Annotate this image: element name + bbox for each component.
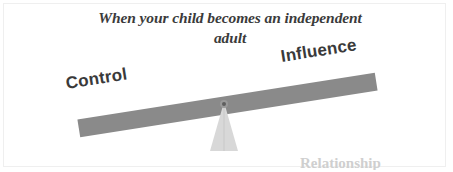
fulcrum (196, 100, 252, 153)
title-line-1: When your child becomes an independent (98, 9, 362, 26)
label-control: Control (64, 64, 128, 93)
slide-canvas: When your child becomes an independent a… (0, 0, 453, 172)
fulcrum-icon (196, 100, 252, 153)
clipped-caption-text: Relationship (300, 156, 430, 170)
clipped-caption: Relationship (300, 156, 430, 170)
